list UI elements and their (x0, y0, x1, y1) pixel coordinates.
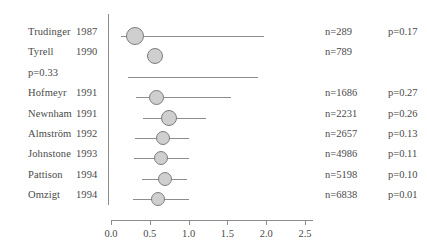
study-year-label: 1994 (76, 169, 97, 180)
forest-plot: Trudinger1987n=289p=0.17Tyrell1990n=789p… (0, 0, 427, 244)
study-name-label: Hofmeyr (28, 87, 67, 98)
effect-estimate-marker (156, 131, 170, 145)
x-axis-line (111, 220, 313, 221)
effect-estimate-marker (151, 192, 165, 206)
study-name-label: Trudinger (28, 26, 71, 37)
sample-size-label: n=789 (325, 46, 352, 57)
study-name-label: Newnham (28, 108, 72, 119)
effect-estimate-marker (126, 27, 144, 45)
study-name-label: Omzigt (28, 189, 60, 200)
study-name-label: Johnstone (28, 148, 71, 159)
study-year-label: 1987 (76, 26, 97, 37)
effect-estimate-marker (161, 110, 177, 126)
effect-estimate-marker (147, 48, 163, 64)
sample-size-label: n=4986 (325, 148, 357, 159)
p-value-label: p=0.27 (388, 87, 418, 98)
reference-axis-line (108, 14, 109, 205)
sample-size-label: n=2231 (325, 108, 357, 119)
x-axis-tick (150, 220, 151, 225)
x-axis-tick (111, 220, 112, 225)
sample-size-label: n=289 (325, 26, 352, 37)
p-value-label: p=0.26 (388, 108, 418, 119)
effect-estimate-marker (158, 172, 172, 186)
study-year-label: 1991 (76, 87, 97, 98)
x-axis-tick-label: 2.5 (290, 228, 320, 239)
confidence-interval-line (128, 77, 258, 78)
study-year-label: 1991 (76, 108, 97, 119)
study-name-label: p=0.33 (28, 67, 58, 78)
p-value-label: p=0.10 (388, 169, 418, 180)
study-year-label: 1992 (76, 128, 97, 139)
p-value-label: p=0.17 (388, 26, 418, 37)
sample-size-label: n=1686 (325, 87, 357, 98)
p-value-label: p=0.11 (388, 148, 417, 159)
study-name-label: Almström (28, 128, 71, 139)
x-axis-tick-label: 0.5 (135, 228, 165, 239)
effect-estimate-marker (154, 151, 168, 165)
study-year-label: 1993 (76, 148, 97, 159)
x-axis-tick (189, 220, 190, 225)
x-axis-tick (305, 220, 306, 225)
x-axis-tick-label: 0.0 (96, 228, 126, 239)
x-axis-tick-label: 1.0 (174, 228, 204, 239)
study-year-label: 1990 (76, 46, 97, 57)
sample-size-label: n=5198 (325, 169, 357, 180)
x-axis-tick-label: 2.0 (251, 228, 281, 239)
effect-estimate-marker (149, 90, 164, 105)
x-axis-tick-label: 1.5 (212, 228, 242, 239)
study-year-label: 1994 (76, 189, 97, 200)
p-value-label: p=0.13 (388, 128, 418, 139)
sample-size-label: n=2657 (325, 128, 357, 139)
study-name-label: Pattison (28, 169, 63, 180)
x-axis-tick (227, 220, 228, 225)
study-name-label: Tyrell (28, 46, 54, 57)
x-axis-tick (266, 220, 267, 225)
sample-size-label: n=6838 (325, 189, 357, 200)
p-value-label: p=0.01 (388, 189, 418, 200)
